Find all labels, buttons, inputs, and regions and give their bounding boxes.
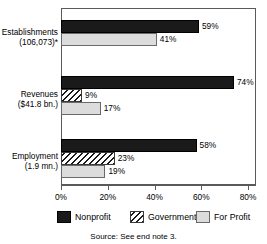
legend-item-forprofit[interactable]: For Profit xyxy=(196,210,250,224)
bar-value-label: 74% xyxy=(237,76,254,89)
bar-value-label: 23% xyxy=(118,152,135,165)
bar-value-label: 41% xyxy=(160,33,177,46)
category-label-employment: Employment (1.9 mn.) xyxy=(12,152,58,171)
bar-nonprofit xyxy=(61,76,234,89)
category-label-line2: (106,073)* xyxy=(2,38,58,48)
chart-legend: NonprofitGovernmentFor Profit xyxy=(0,210,267,226)
category-label-line1: Employment xyxy=(12,151,58,161)
category-label-line1: Establishments xyxy=(2,27,58,37)
x-axis-line xyxy=(61,185,256,186)
chart-container: Establishments (106,073)* Revenues ($41.… xyxy=(0,0,267,244)
x-axis-tick-label: 0% xyxy=(55,192,67,202)
bar-government xyxy=(61,152,115,165)
category-label-line2: ($41.8 bn.) xyxy=(18,100,58,110)
x-axis-tick-label: 40% xyxy=(146,192,163,202)
x-axis-tick xyxy=(155,185,156,190)
bar-forprofit xyxy=(61,165,105,178)
x-axis-tick-label: 80% xyxy=(240,192,257,202)
bar-value-label: 59% xyxy=(202,20,219,33)
x-axis-tick-label: 60% xyxy=(193,192,210,202)
bar-forprofit xyxy=(61,102,101,115)
legend-item-government[interactable]: Government xyxy=(130,210,196,224)
bar-government xyxy=(61,89,82,102)
legend-label: Government xyxy=(148,211,196,223)
legend-swatch-government xyxy=(130,211,144,223)
bar-value-label: 17% xyxy=(104,102,121,115)
bar-nonprofit xyxy=(61,139,197,152)
source-note: Source: See end note 3. xyxy=(0,232,267,242)
bar-value-label: 9% xyxy=(85,89,97,102)
legend-swatch-forprofit xyxy=(196,211,210,223)
legend-swatch-nonprofit xyxy=(57,211,71,223)
x-axis-tick-label: 20% xyxy=(99,192,116,202)
legend-item-nonprofit[interactable]: Nonprofit xyxy=(57,210,111,224)
category-label-line1: Revenues xyxy=(21,89,58,99)
bar-nonprofit xyxy=(61,20,199,33)
bar-value-label: 19% xyxy=(108,165,125,178)
bar-value-label: 58% xyxy=(200,139,217,152)
legend-label: Nonprofit xyxy=(75,211,111,223)
legend-label: For Profit xyxy=(214,211,250,223)
x-axis-tick xyxy=(61,185,62,190)
x-axis-tick xyxy=(248,185,249,190)
category-label-line2: (1.9 mn.) xyxy=(12,162,58,172)
x-axis-tick xyxy=(201,185,202,190)
category-label-revenues: Revenues ($41.8 bn.) xyxy=(18,90,58,109)
category-label-establishments: Establishments (106,073)* xyxy=(2,28,58,47)
x-axis-tick xyxy=(108,185,109,190)
bar-forprofit xyxy=(61,33,157,46)
